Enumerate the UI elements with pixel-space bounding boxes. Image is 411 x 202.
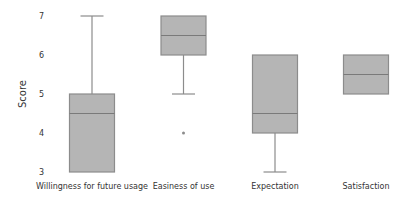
y-tick-label: 7 [39,12,44,21]
y-tick-label: 3 [39,168,44,177]
outlier-point [182,132,185,135]
x-tick-label: Easiness of use [153,182,215,191]
y-tick-label: 6 [39,51,44,60]
iqr-box [70,94,115,172]
y-axis-ticks: 34567 [39,12,44,177]
y-tick-label: 4 [39,129,44,138]
boxes-group [70,16,389,172]
box-satisfaction [344,55,389,94]
x-tick-label: Expectation [251,182,299,191]
box-willingness-for-future-usage [70,16,115,172]
x-tick-label: Willingness for future usage [36,182,148,191]
y-tick-label: 5 [39,90,44,99]
box-expectation [253,55,298,172]
iqr-box [253,55,298,133]
x-axis-labels: Willingness for future usageEasiness of … [36,182,389,191]
y-axis-label: Score [17,80,28,108]
box-easiness-of-use [161,16,206,135]
plot-area: Score 34567 Willingness for future usage… [0,0,411,202]
box-plot-chart: Score 34567 Willingness for future usage… [0,0,411,202]
x-tick-label: Satisfaction [343,182,390,191]
